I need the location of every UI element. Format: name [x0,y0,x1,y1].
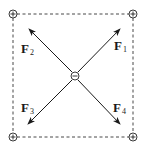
label-f3-name: F [21,100,29,115]
label-f3: F 3 [21,100,34,116]
label-f4: F 4 [113,100,126,116]
charge-diagram: F 1 F 2 F 3 F 4 [0,0,145,150]
label-f1-sub: 1 [123,45,127,54]
label-f2: F 2 [21,41,34,57]
force-arrow-f2 [29,29,72,72]
positive-charge-bottom-left [9,133,17,141]
label-f1: F 1 [114,38,127,54]
label-f4-name: F [113,100,121,115]
force-arrow-f3 [28,80,72,124]
label-f2-sub: 2 [30,48,34,57]
label-f4-sub: 4 [122,107,126,116]
label-f3-sub: 3 [30,107,34,116]
label-f2-name: F [21,41,29,56]
positive-charge-bottom-right [129,133,137,141]
label-f1-name: F [114,38,122,53]
positive-charge-top-right [129,10,137,18]
positive-charge-top-left [9,10,17,18]
negative-charge-center [71,72,79,80]
